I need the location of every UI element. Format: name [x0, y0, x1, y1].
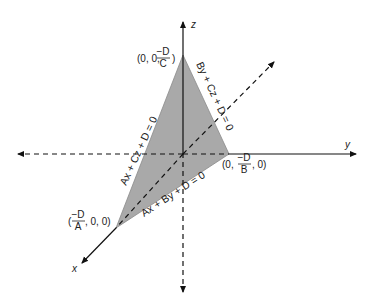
y-intercept-label: (0, −D B , 0) — [222, 152, 266, 175]
x-axis-label: x — [71, 263, 78, 274]
z-intercept-label: (0, 0, −D C ) — [137, 46, 175, 69]
svg-text:−D: −D — [71, 209, 84, 220]
z-axis-label: z — [190, 19, 196, 30]
svg-text:(0,: (0, — [222, 159, 234, 170]
svg-text:−D: −D — [237, 152, 250, 163]
svg-text:C: C — [159, 58, 166, 69]
svg-text:, 0, 0): , 0, 0) — [85, 216, 111, 227]
svg-text:, 0): , 0) — [252, 159, 266, 170]
svg-text:B: B — [241, 164, 248, 175]
y-axis-label: y — [344, 139, 351, 150]
plane-diagram: z y x (0, 0, −D C ) (0, −D B , 0) ( −D A… — [0, 0, 366, 300]
x-intercept-label: ( −D A , 0, 0) — [68, 209, 111, 232]
svg-text:−D: −D — [156, 46, 169, 57]
svg-text:A: A — [75, 221, 82, 232]
svg-text:): ) — [172, 53, 175, 64]
x-axis-positive — [82, 228, 116, 263]
